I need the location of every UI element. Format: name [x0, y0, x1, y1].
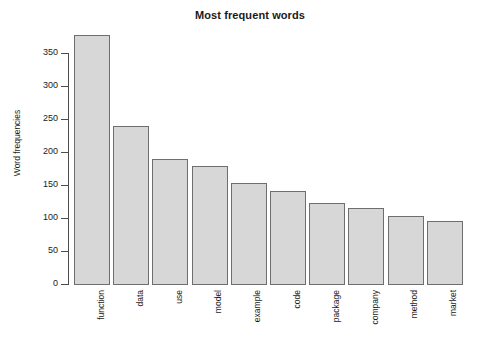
x-tick-label-data: data	[135, 290, 145, 307]
x-tick-label-company: company	[370, 290, 380, 325]
chart-figure: Most frequent words 05010015020025030035…	[0, 0, 500, 337]
x-tick-label-code: code	[292, 290, 302, 308]
x-tick-label-package: package	[331, 290, 341, 322]
x-tick-label-function: function	[96, 290, 106, 320]
x-axis-tick-labels: functiondatausemodelexamplecodepackageco…	[0, 0, 500, 337]
x-tick-label-example: example	[252, 290, 262, 322]
x-tick-label-use: use	[174, 290, 184, 304]
x-tick-label-market: market	[448, 290, 458, 316]
x-tick-label-method: method	[409, 290, 419, 318]
x-tick-label-model: model	[213, 290, 223, 313]
